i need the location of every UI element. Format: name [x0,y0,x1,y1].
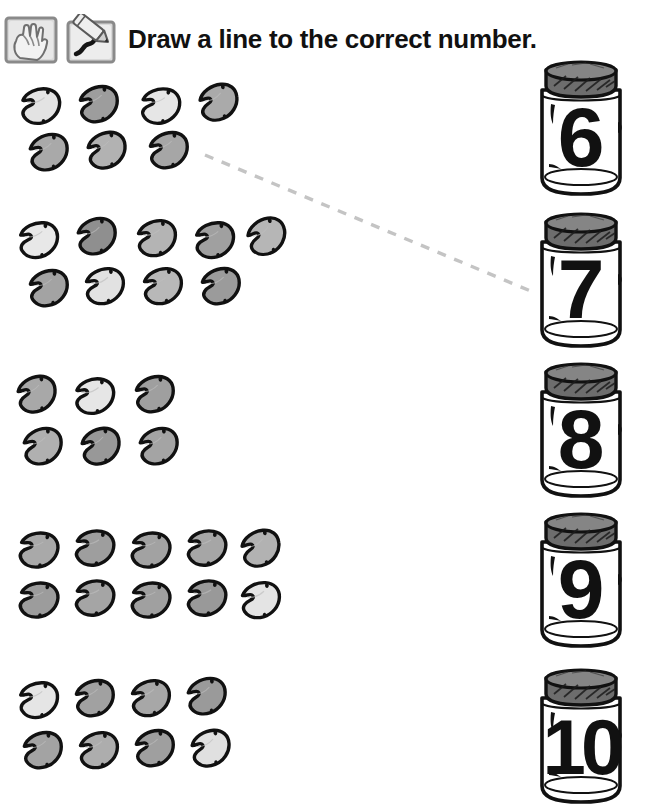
number-jar-10[interactable]: 10 [528,668,634,807]
bean [124,526,177,575]
bean [128,211,186,265]
bean [70,723,128,777]
bean [178,668,237,724]
bean [122,671,180,725]
hand-counting-icon [4,14,60,66]
bean [187,213,244,266]
bean [68,573,122,623]
bean [231,519,291,577]
bean [71,418,130,475]
bean [11,213,68,266]
bean [20,124,79,180]
bean [192,258,250,313]
bean [130,418,189,474]
number-jar-7[interactable]: 7 [528,212,634,352]
page-title: Draw a line to the correct number. [128,24,537,55]
bean [68,208,127,264]
bean [232,573,290,627]
bean [76,259,134,313]
number-jar-6[interactable]: 6 [528,60,634,200]
bean [140,122,198,177]
pencil-drawing-icon [62,14,118,66]
bean [20,260,78,315]
bean [11,673,68,726]
bean [189,73,249,131]
bean [12,576,65,625]
svg-text:10: 10 [543,703,622,791]
bean [124,576,177,625]
bean [14,418,73,474]
svg-text:8: 8 [558,392,605,486]
bean [181,720,240,777]
bean [68,523,122,573]
bean [66,670,124,725]
bean [12,526,65,575]
bean [126,366,184,421]
bean [237,207,298,266]
svg-text:6: 6 [558,90,605,184]
bean [180,573,234,623]
bean [134,259,192,313]
svg-text:7: 7 [558,242,605,336]
number-jar-9[interactable]: 9 [528,512,634,652]
bean [67,370,123,422]
bean [7,366,66,423]
bean [126,720,184,775]
worksheet-page: Draw a line to the correct number. 67891… [0,0,656,807]
bean [14,722,72,777]
number-jar-8[interactable]: 8 [528,362,634,502]
svg-text:9: 9 [558,542,605,636]
bean [180,523,234,573]
